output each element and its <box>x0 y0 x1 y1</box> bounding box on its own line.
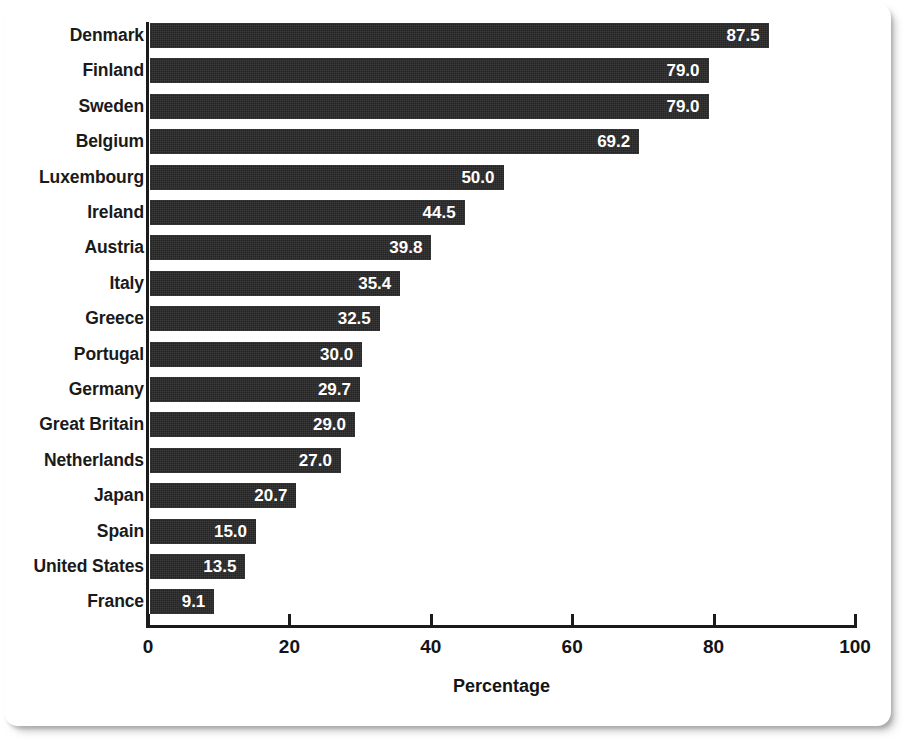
category-label: Germany <box>0 377 144 402</box>
bar: 69.2 <box>150 129 639 154</box>
bar-value-label: 39.8 <box>389 235 422 260</box>
category-label: Ireland <box>0 200 144 225</box>
x-axis-tick <box>854 614 857 628</box>
bar-value-label: 27.0 <box>299 448 332 473</box>
bar-value-label: 9.1 <box>182 589 206 614</box>
bar-value-label: 29.7 <box>318 377 351 402</box>
bar: 32.5 <box>150 306 380 331</box>
category-label: Portugal <box>0 342 144 367</box>
category-label: Greece <box>0 306 144 331</box>
bar-row: Finland79.0 <box>148 57 855 92</box>
x-axis-tick <box>147 614 150 628</box>
bar-row: Japan20.7 <box>148 482 855 517</box>
category-label: Denmark <box>0 23 144 48</box>
bar-row: Great Britain29.0 <box>148 411 855 446</box>
category-label: Italy <box>0 271 144 296</box>
bar-row: Denmark87.5 <box>148 22 855 57</box>
bar-row: Italy35.4 <box>148 270 855 305</box>
category-label: United States <box>0 554 144 579</box>
bar: 9.1 <box>150 589 214 614</box>
bar-value-label: 32.5 <box>338 306 371 331</box>
plot-area: Denmark87.5Finland79.0Sweden79.0Belgium6… <box>148 22 855 625</box>
bar-value-label: 87.5 <box>727 23 760 48</box>
bar-value-label: 30.0 <box>320 342 353 367</box>
category-label: Japan <box>0 483 144 508</box>
bar-row: Austria39.8 <box>148 234 855 269</box>
bar-value-label: 35.4 <box>358 271 391 296</box>
bar-row: United States13.5 <box>148 553 855 588</box>
bar: 87.5 <box>150 23 769 48</box>
bar-row: Portugal30.0 <box>148 341 855 376</box>
x-axis-tick-label: 40 <box>386 636 476 658</box>
bar-row: Greece32.5 <box>148 305 855 340</box>
bar-value-label: 29.0 <box>313 412 346 437</box>
bar-value-label: 79.0 <box>666 58 699 83</box>
bar-value-label: 50.0 <box>461 165 494 190</box>
x-axis-tick <box>430 614 433 628</box>
bar: 44.5 <box>150 200 465 225</box>
x-axis-tick-label: 100 <box>810 636 900 658</box>
bar-row: Ireland44.5 <box>148 199 855 234</box>
bar-value-label: 13.5 <box>203 554 236 579</box>
x-axis-line <box>146 625 857 628</box>
category-label: Great Britain <box>0 412 144 437</box>
bar-value-label: 20.7 <box>254 483 287 508</box>
bar-row: Sweden79.0 <box>148 93 855 128</box>
category-label: Sweden <box>0 94 144 119</box>
x-axis-tick <box>571 614 574 628</box>
horizontal-bar-chart: Denmark87.5Finland79.0Sweden79.0Belgium6… <box>0 0 907 752</box>
bar: 29.0 <box>150 412 355 437</box>
bar: 39.8 <box>150 235 431 260</box>
x-axis-title: Percentage <box>148 676 855 697</box>
category-label: France <box>0 589 144 614</box>
bar-row: France9.1 <box>148 588 855 623</box>
category-label: Spain <box>0 519 144 544</box>
category-label: Netherlands <box>0 448 144 473</box>
category-label: Luxembourg <box>0 165 144 190</box>
bar: 27.0 <box>150 448 341 473</box>
bar: 79.0 <box>150 94 709 119</box>
x-axis-tick-label: 0 <box>103 636 193 658</box>
x-axis-tick <box>713 614 716 628</box>
bar-row: Belgium69.2 <box>148 128 855 163</box>
x-axis-tick-label: 60 <box>527 636 617 658</box>
bar-row: Luxembourg50.0 <box>148 164 855 199</box>
bar-row: Germany29.7 <box>148 376 855 411</box>
x-axis-tick-label: 80 <box>669 636 759 658</box>
bar: 79.0 <box>150 58 709 83</box>
category-label: Finland <box>0 58 144 83</box>
bar: 30.0 <box>150 342 362 367</box>
bar: 15.0 <box>150 519 256 544</box>
bar: 50.0 <box>150 165 504 190</box>
bar: 29.7 <box>150 377 360 402</box>
bar: 35.4 <box>150 271 400 296</box>
bar-value-label: 69.2 <box>597 129 630 154</box>
bar: 13.5 <box>150 554 245 579</box>
category-label: Austria <box>0 235 144 260</box>
category-label: Belgium <box>0 129 144 154</box>
bar-value-label: 15.0 <box>214 519 247 544</box>
x-axis-tick-label: 20 <box>244 636 334 658</box>
x-axis-tick <box>288 614 291 628</box>
bar-value-label: 44.5 <box>423 200 456 225</box>
bar-row: Spain15.0 <box>148 518 855 553</box>
bar: 20.7 <box>150 483 296 508</box>
bar-row: Netherlands27.0 <box>148 447 855 482</box>
bar-value-label: 79.0 <box>666 94 699 119</box>
